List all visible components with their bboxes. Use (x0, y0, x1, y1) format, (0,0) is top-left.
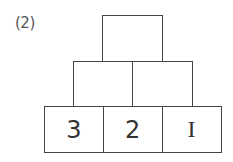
pyramid-cell-bottom-right: I (162, 106, 222, 153)
problem-number: (2) (15, 14, 35, 32)
pyramid-cell-bottom-middle: 2 (103, 106, 164, 153)
pyramid-cell-middle-right[interactable] (132, 61, 193, 108)
pyramid-cell-bottom-left: 3 (44, 106, 104, 153)
pyramid-cell-top[interactable] (102, 15, 163, 62)
pyramid-cell-middle-left[interactable] (73, 61, 134, 108)
